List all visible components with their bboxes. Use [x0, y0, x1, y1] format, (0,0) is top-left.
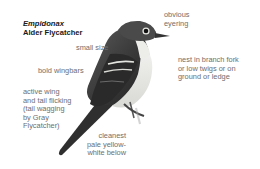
label-cleanest-below: cleanest pale yellow- white below [82, 132, 126, 158]
label-small-size: small size [76, 44, 108, 53]
label-active-wing: active wing and tail flicking (tail wagg… [23, 88, 71, 131]
label-obvious-eyering: obvious eyering [164, 11, 189, 28]
alder-flycatcher-illustration [0, 0, 260, 169]
label-nest: nest in branch fork or low twigs or on g… [178, 56, 239, 82]
label-bold-wingbars: bold wingbars [38, 67, 84, 76]
